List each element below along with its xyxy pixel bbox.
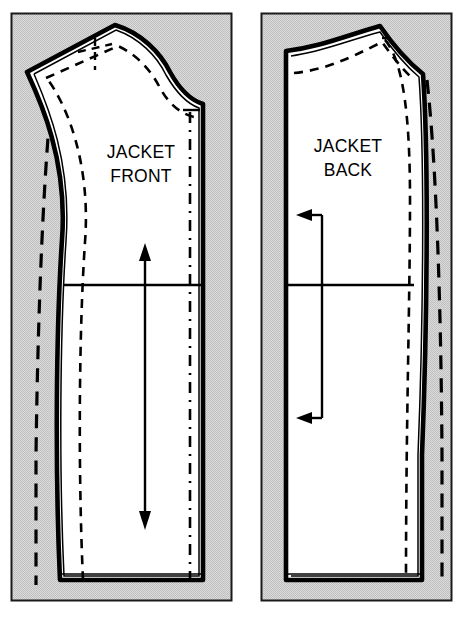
panel-front: JACKET FRONT [12,14,232,601]
back-label-line1: JACKET [314,136,382,156]
back-cut-line [286,26,427,580]
front-label-line2: FRONT [110,166,171,186]
panel-back: JACKET BACK [262,14,452,601]
pattern-svg-canvas: JACKET FRONT [0,0,463,620]
back-label-line2: BACK [324,160,373,180]
front-label-line1: JACKET [107,142,175,162]
pattern-diagram: JACKET FRONT [0,0,463,620]
